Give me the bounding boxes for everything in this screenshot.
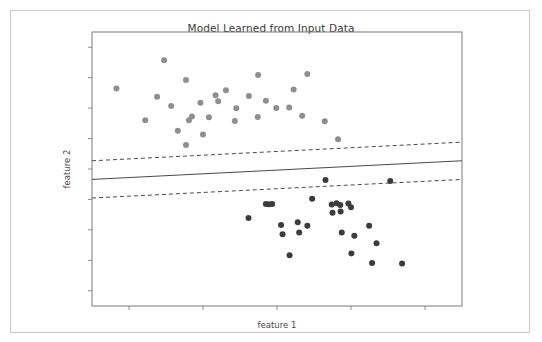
data-point <box>213 92 219 98</box>
data-point <box>322 118 328 124</box>
data-point <box>246 215 252 221</box>
data-point <box>223 87 229 93</box>
data-point <box>387 178 393 184</box>
data-point <box>366 223 372 229</box>
data-point <box>322 177 328 183</box>
plot-frame <box>92 32 462 306</box>
data-point <box>338 208 344 214</box>
data-point <box>246 93 252 99</box>
data-point <box>189 113 195 119</box>
scatter-plot: feature 1feature 2 <box>11 11 531 334</box>
data-point <box>351 233 357 239</box>
data-point <box>215 98 221 104</box>
data-point <box>183 77 189 83</box>
data-point <box>200 131 206 137</box>
data-point <box>309 196 315 202</box>
figure-container: Model Learned from Input Data feature 1f… <box>10 10 530 333</box>
y-axis-label: feature 2 <box>62 150 72 189</box>
series-class-1 <box>246 177 406 267</box>
data-point <box>280 231 286 237</box>
data-point <box>263 98 269 104</box>
data-point <box>206 114 212 120</box>
data-point <box>348 250 354 256</box>
data-point <box>168 103 174 109</box>
data-point <box>278 222 284 228</box>
data-point <box>232 118 238 124</box>
data-point <box>335 136 341 142</box>
data-point <box>286 105 292 111</box>
data-point <box>269 201 275 207</box>
data-point <box>369 260 375 266</box>
data-point <box>374 240 380 246</box>
data-point <box>113 85 119 91</box>
data-point <box>161 57 167 63</box>
data-point <box>273 105 279 111</box>
decision-boundary-line <box>92 161 462 180</box>
x-axis-label: feature 1 <box>258 320 297 330</box>
data-point <box>330 210 336 216</box>
data-point <box>183 142 189 148</box>
data-point <box>154 94 160 100</box>
data-point <box>348 204 354 210</box>
upper-margin-line <box>92 142 462 161</box>
data-point <box>142 117 148 123</box>
series-class-0 <box>113 57 341 148</box>
data-point <box>291 87 297 93</box>
data-point <box>304 223 310 229</box>
data-point <box>337 202 343 208</box>
data-point <box>399 261 405 267</box>
data-point <box>287 252 293 258</box>
data-point <box>296 230 302 236</box>
data-point <box>299 113 305 119</box>
data-point <box>233 105 239 111</box>
data-point <box>295 219 301 225</box>
data-point <box>197 100 203 106</box>
data-point <box>175 128 181 134</box>
data-point <box>255 114 261 120</box>
data-point <box>339 230 345 236</box>
data-point <box>304 71 310 77</box>
lower-margin-line <box>92 179 462 198</box>
data-point <box>255 72 261 78</box>
